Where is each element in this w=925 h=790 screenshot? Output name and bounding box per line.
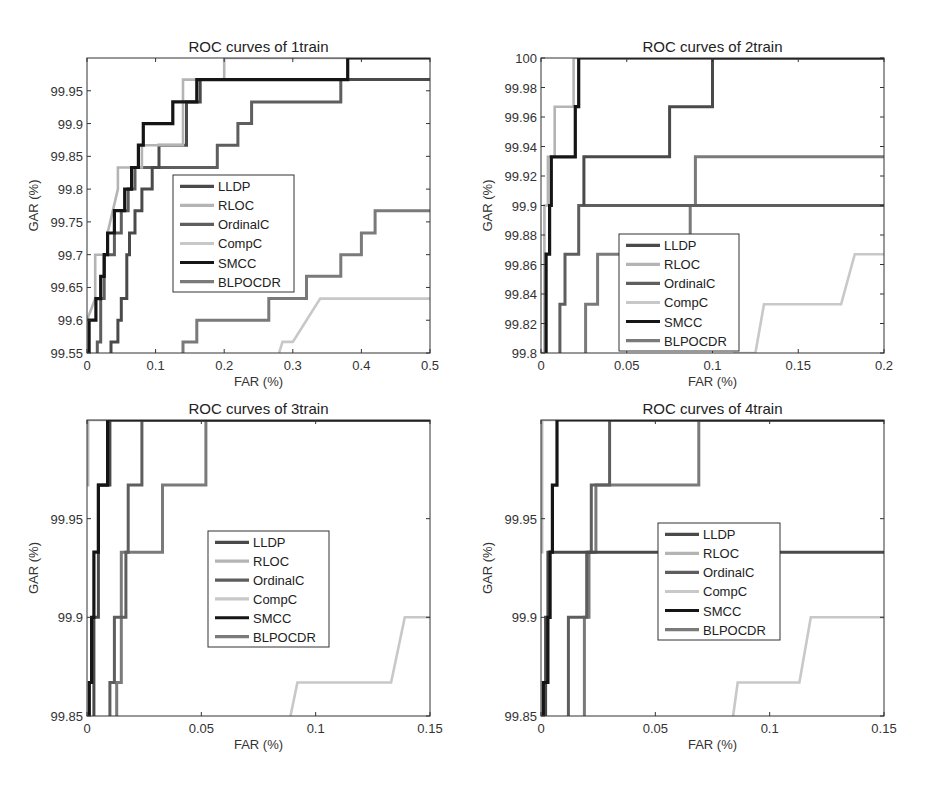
legend: LLDPRLOCOrdinalCCompCSMCCBLPOCDR <box>173 175 294 292</box>
legend-label: BLPOCDR <box>703 623 766 638</box>
y-tick-label: 99.95 <box>50 512 83 527</box>
legend-label: OrdinalC <box>253 573 304 588</box>
legend: LLDPRLOCOrdinalCCompCSMCCBLPOCDR <box>208 531 329 647</box>
legend-label: SMCC <box>664 315 702 330</box>
x-tick-label: 0.1 <box>703 358 721 373</box>
x-axis-label: FAR (%) <box>688 737 737 752</box>
legend-label: OrdinalC <box>218 217 269 232</box>
y-tick-label: 100 <box>515 51 537 66</box>
y-axis-label: GAR (%) <box>26 542 41 594</box>
y-tick-label: 99.9 <box>512 199 537 214</box>
y-tick-label: 99.85 <box>50 149 83 164</box>
legend-label: BLPOCDR <box>253 630 316 645</box>
y-tick-label: 99.92 <box>504 169 537 184</box>
x-tick-label: 0.1 <box>761 721 779 736</box>
y-tick-label: 99.82 <box>504 317 537 332</box>
y-tick-label: 99.6 <box>58 313 83 328</box>
legend-label: OrdinalC <box>664 276 715 291</box>
legend-label: LLDP <box>253 535 286 550</box>
series-line-compc <box>733 254 884 353</box>
y-tick-label: 99.85 <box>50 709 83 724</box>
roc-chart-2: ROC curves of 2train00.050.10.150.299.89… <box>480 38 893 389</box>
chart-title: ROC curves of 2train <box>642 38 782 55</box>
x-tick-label: 0.1 <box>147 358 165 373</box>
legend-label: SMCC <box>703 604 741 619</box>
y-tick-label: 99.55 <box>50 346 83 361</box>
x-tick-label: 0 <box>83 721 90 736</box>
legend-label: CompC <box>664 295 708 310</box>
x-tick-label: 0.15 <box>786 358 811 373</box>
legend-label: LLDP <box>664 238 697 253</box>
chart-title: ROC curves of 1train <box>188 38 328 55</box>
y-tick-label: 99.85 <box>504 709 537 724</box>
roc-chart-3: ROC curves of 3train00.050.10.1599.8599.… <box>26 400 443 752</box>
x-tick-label: 0.2 <box>875 358 893 373</box>
y-tick-label: 99.94 <box>504 140 537 155</box>
x-tick-label: 0.15 <box>871 721 896 736</box>
y-tick-label: 99.8 <box>512 346 537 361</box>
legend-label: RLOC <box>703 546 739 561</box>
legend-label: LLDP <box>703 527 736 542</box>
y-tick-label: 99.98 <box>504 81 537 96</box>
series-line-rloc <box>87 420 430 485</box>
x-tick-label: 0.3 <box>284 358 302 373</box>
y-tick-label: 99.7 <box>58 248 83 263</box>
legend-label: CompC <box>218 236 262 251</box>
x-tick-label: 0.4 <box>352 358 370 373</box>
y-tick-label: 99.9 <box>58 610 83 625</box>
y-tick-label: 99.75 <box>50 215 83 230</box>
x-axis-label: FAR (%) <box>234 374 283 389</box>
x-axis-label: FAR (%) <box>234 737 283 752</box>
y-tick-label: 99.88 <box>504 228 537 243</box>
chart-title: ROC curves of 4train <box>642 400 782 417</box>
y-tick-label: 99.9 <box>58 117 83 132</box>
x-tick-label: 0 <box>537 358 544 373</box>
x-tick-label: 0 <box>537 721 544 736</box>
x-tick-label: 0.05 <box>643 721 668 736</box>
legend-label: CompC <box>253 592 297 607</box>
x-tick-label: 0.05 <box>614 358 639 373</box>
y-tick-label: 99.8 <box>58 182 83 197</box>
legend-label: SMCC <box>218 256 256 271</box>
chart-title: ROC curves of 3train <box>188 400 328 417</box>
series-line-compc <box>279 299 430 353</box>
roc-chart-1: ROC curves of 1train00.10.20.30.40.599.5… <box>26 38 439 389</box>
x-tick-label: 0.2 <box>215 358 233 373</box>
legend-label: RLOC <box>218 198 254 213</box>
y-tick-label: 99.9 <box>512 610 537 625</box>
x-tick-label: 0.1 <box>307 721 325 736</box>
legend-label: BLPOCDR <box>218 275 281 290</box>
y-axis-label: GAR (%) <box>480 180 495 232</box>
legend-label: SMCC <box>253 611 291 626</box>
x-tick-label: 0.05 <box>189 721 214 736</box>
legend-label: CompC <box>703 584 747 599</box>
x-tick-label: 0.15 <box>417 721 442 736</box>
series-line-lldp <box>584 58 884 206</box>
y-tick-label: 99.96 <box>504 110 537 125</box>
y-tick-label: 99.95 <box>50 84 83 99</box>
legend: LLDPRLOCOrdinalCCompCSMCCBLPOCDR <box>619 234 739 351</box>
roc-figure: ROC curves of 1train00.10.20.30.40.599.5… <box>0 0 925 790</box>
y-tick-label: 99.95 <box>504 512 537 527</box>
legend: LLDPRLOCOrdinalCCompCSMCCBLPOCDR <box>658 523 780 640</box>
x-tick-label: 0.5 <box>421 358 439 373</box>
legend-label: LLDP <box>218 179 251 194</box>
y-tick-label: 99.84 <box>504 287 537 302</box>
y-axis-label: GAR (%) <box>26 180 41 232</box>
legend-label: RLOC <box>664 257 700 272</box>
legend-label: RLOC <box>253 554 289 569</box>
y-axis-label: GAR (%) <box>480 542 495 594</box>
x-tick-label: 0 <box>83 358 90 373</box>
y-tick-label: 99.86 <box>504 258 537 273</box>
y-tick-label: 99.65 <box>50 280 83 295</box>
legend-label: OrdinalC <box>703 565 754 580</box>
x-axis-label: FAR (%) <box>688 374 737 389</box>
legend-label: BLPOCDR <box>664 334 727 349</box>
roc-chart-4: ROC curves of 4train00.050.10.1599.8599.… <box>480 400 897 752</box>
